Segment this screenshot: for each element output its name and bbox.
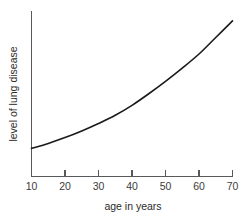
x-axis-title: age in years [104, 200, 161, 212]
x-tick-label-10: 10 [26, 180, 38, 192]
x-tick-label-60: 60 [193, 180, 205, 192]
x-tick-label-70: 70 [227, 180, 239, 192]
x-tick-label-20: 20 [59, 180, 71, 192]
x-tick-label-40: 40 [126, 180, 138, 192]
lung-disease-curve [32, 21, 233, 148]
y-axis-title: level of lung disease [7, 46, 19, 141]
x-tick-labels: 10 20 30 40 50 60 70 [26, 180, 239, 192]
x-tick-label-30: 30 [93, 180, 105, 192]
chart-plot-area: 10 20 30 40 50 60 70 age in years level … [0, 0, 248, 221]
x-tick-label-50: 50 [160, 180, 172, 192]
x-axis-ticks [32, 170, 233, 177]
chart-container: 10 20 30 40 50 60 70 age in years level … [0, 0, 248, 221]
